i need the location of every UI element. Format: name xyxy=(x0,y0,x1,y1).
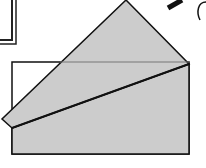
fold-arrow-icon xyxy=(168,0,206,20)
previous-step-frame xyxy=(0,0,16,44)
fold-diagram xyxy=(0,0,206,168)
